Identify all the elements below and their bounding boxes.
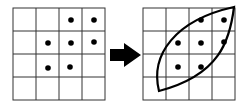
right-dots [175, 17, 227, 70]
left-dots [45, 17, 97, 71]
left-grid [13, 8, 105, 100]
diagram [0, 0, 247, 108]
arrow-icon [110, 43, 141, 67]
right-grid [143, 8, 235, 100]
